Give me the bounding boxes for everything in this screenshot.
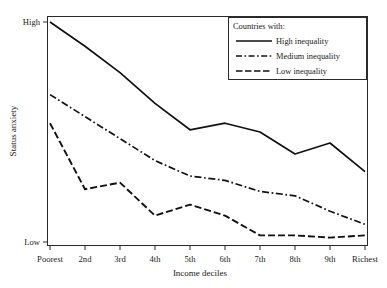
- legend-title: Countries with:: [233, 22, 285, 31]
- x-tick-label-3: 4th: [150, 254, 162, 264]
- y-axis-title: Status anxiety: [8, 105, 18, 156]
- y-tick-label-low: Low: [24, 237, 41, 247]
- x-tick-label-0: Poorest: [37, 254, 63, 264]
- x-tick-labels: Poorest 2nd 3rd 4th 5th 6th 7th 8th 9th …: [37, 254, 378, 264]
- x-tick-label-4: 5th: [185, 254, 197, 264]
- x-tick-label-8: 9th: [325, 254, 337, 264]
- legend: Countries with: High inequality Medium i…: [229, 18, 367, 80]
- legend-label-medium-inequality: Medium inequality: [276, 52, 341, 61]
- y-tick-label-high: High: [23, 17, 41, 27]
- x-tick-label-7: 8th: [290, 254, 302, 264]
- x-tick-label-6: 7th: [255, 254, 267, 264]
- x-tick-label-2: 3rd: [114, 254, 126, 264]
- x-tick-label-1: 2nd: [79, 254, 93, 264]
- legend-label-low-inequality: Low inequality: [276, 67, 328, 76]
- x-axis-title: Income deciles: [173, 268, 228, 278]
- x-tick-marks: [50, 246, 365, 251]
- legend-label-high-inequality: High inequality: [276, 37, 329, 46]
- x-tick-label-5: 6th: [220, 254, 232, 264]
- line-chart-canvas: High Low Status anxiety Poorest 2nd 3rd …: [0, 0, 387, 288]
- chart-figure: High Low Status anxiety Poorest 2nd 3rd …: [0, 0, 387, 288]
- x-tick-label-9: Richest: [352, 254, 378, 264]
